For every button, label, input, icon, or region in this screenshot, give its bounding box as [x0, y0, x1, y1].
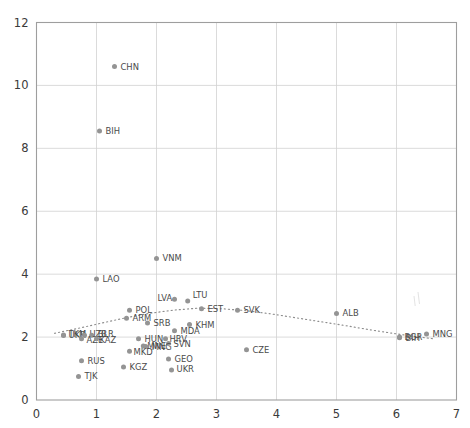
data-point: LVA [158, 293, 178, 303]
point-label: EST [208, 304, 225, 314]
point-label: CHN [121, 62, 139, 72]
x-tick-label: 2 [153, 407, 160, 421]
point-marker [124, 316, 129, 321]
point-label: MKD [134, 347, 153, 357]
x-tick-label: 4 [273, 407, 280, 421]
point-label: GEO [175, 354, 194, 364]
data-point: RUS [79, 356, 105, 366]
point-marker [172, 297, 177, 302]
point-marker [424, 331, 429, 336]
point-marker [169, 368, 174, 373]
point-marker [244, 347, 249, 352]
data-points: CHNBIHVNMLAOLVALTUESTPOLSVKALBARMSRBKHMM… [61, 62, 452, 382]
point-label: VNM [163, 253, 182, 263]
y-tick-label: 10 [14, 78, 29, 92]
data-point: BIH [397, 333, 420, 343]
point-label: MNG [152, 342, 172, 352]
render-artifacts [414, 292, 420, 306]
y-tick-label: 8 [21, 141, 28, 155]
point-marker [235, 308, 240, 313]
data-point: KGZ [121, 362, 147, 372]
y-tick-label: 0 [21, 393, 28, 407]
point-marker [127, 308, 132, 313]
data-point: BIH [97, 126, 120, 136]
x-tick-label: 0 [33, 407, 40, 421]
data-point: EST [199, 304, 224, 314]
point-label: SRB [154, 318, 171, 328]
point-marker [127, 349, 132, 354]
data-point: CZE [244, 345, 269, 355]
point-label: RUS [88, 356, 105, 366]
data-point: TJK [76, 371, 98, 381]
point-label: BIH [406, 333, 421, 343]
point-label: LVA [158, 293, 173, 303]
y-tick-label: 4 [21, 267, 28, 281]
point-label: LAO [103, 274, 120, 284]
data-point: CHN [112, 62, 139, 72]
point-marker [94, 276, 99, 281]
point-marker [94, 336, 99, 341]
point-label: BIH [106, 126, 121, 136]
chart-canvas: CHNBIHVNMLAOLVALTUESTPOLSVKALBARMSRBKHMM… [0, 0, 470, 428]
point-marker [166, 357, 171, 362]
scatter-chart: CHNBIHVNMLAOLVALTUESTPOLSVKALBARMSRBKHMM… [0, 0, 470, 428]
x-tick-label: 7 [453, 407, 460, 421]
point-marker [199, 306, 204, 311]
point-marker [154, 256, 159, 261]
point-marker [136, 336, 141, 341]
point-marker [172, 328, 177, 333]
y-tick-label: 6 [21, 204, 28, 218]
point-marker [397, 335, 402, 340]
point-marker [79, 358, 84, 363]
y-tick-label: 12 [14, 16, 29, 30]
x-tick-label: 6 [393, 407, 400, 421]
point-label: KAZ [100, 335, 117, 345]
point-marker [79, 336, 84, 341]
data-point: MKD [127, 347, 153, 357]
point-marker [334, 311, 339, 316]
point-marker [185, 298, 190, 303]
x-axis-tick-labels: 01234567 [33, 407, 460, 421]
point-marker [76, 374, 81, 379]
point-marker [112, 64, 117, 69]
point-marker [145, 320, 150, 325]
point-label: LTU [193, 290, 208, 300]
point-label: MNG [433, 329, 453, 339]
data-point: VNM [154, 253, 182, 263]
point-marker [121, 364, 126, 369]
x-tick-label: 3 [213, 407, 220, 421]
data-point: GEO [166, 354, 193, 364]
point-marker [97, 129, 102, 134]
point-label: TJK [84, 371, 99, 381]
data-point: UKR [169, 364, 194, 374]
x-tick-label: 1 [93, 407, 100, 421]
point-label: UKR [177, 364, 195, 374]
y-axis-tick-labels: 024681012 [14, 16, 29, 408]
point-label: SVK [244, 305, 261, 315]
data-point: LTU [185, 290, 207, 304]
data-point: ALB [334, 308, 359, 318]
point-label: ALB [343, 308, 359, 318]
y-tick-label: 2 [21, 330, 28, 344]
point-marker [61, 333, 66, 338]
point-label: KGZ [130, 362, 148, 372]
point-label: CZE [253, 345, 270, 355]
data-point: SVK [235, 305, 261, 315]
data-point: LAO [94, 274, 120, 284]
point-label: SVN [174, 339, 191, 349]
x-tick-label: 5 [333, 407, 340, 421]
